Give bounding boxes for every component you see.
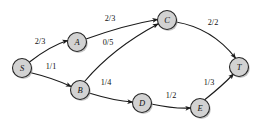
edge-label-b-c: 0/5 xyxy=(103,38,113,47)
graph-canvas: SABCDET 2/31/12/30/52/21/41/21/3 xyxy=(0,0,260,124)
edge-label-b-d: 1/4 xyxy=(101,78,111,87)
edge-b-d xyxy=(89,93,133,102)
node-c[interactable]: C xyxy=(158,11,178,32)
node-a[interactable]: A xyxy=(68,33,88,54)
edge-a-c xyxy=(86,20,158,40)
edge-d-e xyxy=(151,104,191,108)
edge-b-c xyxy=(85,24,158,81)
node-label: C xyxy=(164,15,170,25)
node-label: A xyxy=(73,37,80,47)
flow-network-diagram: SABCDET 2/31/12/30/52/21/41/21/3 xyxy=(0,0,260,124)
edge-label-d-e: 1/2 xyxy=(166,91,176,100)
edges-layer xyxy=(30,20,236,109)
node-e[interactable]: E xyxy=(191,99,211,120)
node-label: E xyxy=(196,103,203,113)
edge-label-a-c: 2/3 xyxy=(105,14,115,23)
edge-label-s-b: 1/1 xyxy=(46,62,56,71)
node-d[interactable]: D xyxy=(133,94,153,115)
node-label: B xyxy=(77,85,82,95)
edge-label-e-t: 1/3 xyxy=(204,78,214,87)
edge-s-b xyxy=(30,73,71,87)
node-label: D xyxy=(138,98,146,108)
edge-label-c-t: 2/2 xyxy=(208,18,218,27)
edge-c-t xyxy=(176,22,236,58)
edge-label-s-a: 2/3 xyxy=(35,37,45,46)
node-b[interactable]: B xyxy=(71,81,91,102)
